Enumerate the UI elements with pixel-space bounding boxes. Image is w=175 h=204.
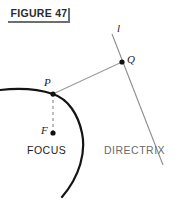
point-f-label: F — [41, 124, 48, 136]
line-l-label: l — [117, 22, 120, 34]
segment-p-to-q — [53, 62, 122, 94]
point-f-marker — [50, 130, 55, 135]
point-p-label: P — [44, 76, 51, 88]
point-q-marker — [119, 59, 124, 64]
point-q-label: Q — [127, 53, 135, 65]
focus-caption: FOCUS — [27, 144, 66, 156]
directrix-caption: DIRECTRIX — [104, 144, 165, 156]
point-p-marker — [50, 91, 55, 96]
figure-container: FIGURE 47 l Q P F FOCUS DIRECTRIX — [0, 0, 175, 204]
conic-diagram-svg — [0, 0, 175, 204]
